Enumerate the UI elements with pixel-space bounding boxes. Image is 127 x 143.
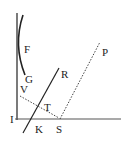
label-S: S — [56, 123, 62, 135]
dotted-line-SP — [60, 42, 100, 119]
label-P: P — [102, 46, 108, 58]
label-I: I — [10, 113, 14, 125]
label-V: V — [20, 83, 28, 95]
label-T: T — [44, 101, 51, 113]
label-F: F — [24, 43, 30, 55]
label-K: K — [35, 123, 43, 135]
geometry-diagram: F G R P V T I K S — [0, 0, 127, 143]
label-R: R — [61, 68, 69, 80]
dotted-line-VS — [20, 96, 59, 118]
